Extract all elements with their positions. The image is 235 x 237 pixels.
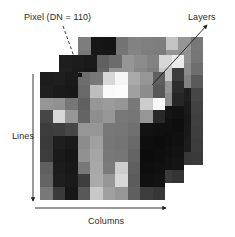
raster-cell xyxy=(172,157,185,170)
raster-cell xyxy=(159,55,172,68)
raster-cell xyxy=(128,72,141,85)
raster-cell xyxy=(65,110,78,123)
raster-cell xyxy=(78,98,91,111)
raster-cell xyxy=(78,174,91,187)
raster-cell xyxy=(128,85,141,98)
raster-cell xyxy=(153,85,166,98)
raster-cell xyxy=(128,37,141,50)
raster-cell xyxy=(78,187,91,200)
raster-cell xyxy=(116,37,129,50)
raster-cell xyxy=(40,72,53,85)
raster-cell xyxy=(115,149,128,162)
raster-cell xyxy=(40,174,53,187)
raster-cell xyxy=(115,85,128,98)
raster-cell xyxy=(90,162,103,175)
raster-cell xyxy=(65,174,78,187)
raster-cell xyxy=(90,85,103,98)
raster-cell xyxy=(172,81,185,94)
raster-cell xyxy=(97,55,110,68)
raster-cell xyxy=(153,123,166,136)
raster-cell xyxy=(191,152,204,165)
raster-cell xyxy=(140,123,153,136)
columns-label: Columns xyxy=(88,216,124,227)
raster-cell xyxy=(115,136,128,149)
raster-cell xyxy=(78,162,91,175)
lines-label: Lines xyxy=(12,131,34,142)
raster-cell xyxy=(103,110,116,123)
raster-cell xyxy=(72,55,85,68)
raster-cell xyxy=(90,136,103,149)
raster-cell xyxy=(78,136,91,149)
raster-cell xyxy=(103,174,116,187)
raster-cell xyxy=(40,98,53,111)
raster-cell xyxy=(40,149,53,162)
raster-cell xyxy=(103,123,116,136)
raster-cell xyxy=(128,187,141,200)
raster-cell xyxy=(128,174,141,187)
raster-cell xyxy=(40,162,53,175)
raster-cell xyxy=(103,136,116,149)
raster-cell xyxy=(103,149,116,162)
raster-cell xyxy=(128,110,141,123)
raster-cell xyxy=(153,110,166,123)
raster-cell xyxy=(53,72,66,85)
raster-cell xyxy=(128,136,141,149)
raster-cell xyxy=(191,127,204,140)
raster-cell xyxy=(40,136,53,149)
raster-cell xyxy=(40,85,53,98)
raster-cell xyxy=(78,85,91,98)
raster-cell xyxy=(78,37,91,50)
raster-cell xyxy=(103,98,116,111)
raster-cell xyxy=(53,110,66,123)
raster-cell xyxy=(191,114,204,127)
raster-cell xyxy=(140,72,153,85)
raster-cell xyxy=(128,149,141,162)
raster-cell xyxy=(115,72,128,85)
raster-cell xyxy=(140,110,153,123)
raster-cell xyxy=(153,162,166,175)
raster-cell xyxy=(140,162,153,175)
raster-cell xyxy=(65,136,78,149)
raster-cell xyxy=(172,119,185,132)
raster-cell xyxy=(90,98,103,111)
raster-cell xyxy=(115,98,128,111)
highlighted-pixel-marker xyxy=(78,73,82,77)
raster-cell xyxy=(191,37,204,50)
raster-cell xyxy=(115,110,128,123)
raster-cell xyxy=(103,187,116,200)
raster-cell xyxy=(172,132,185,145)
raster-layer-stack xyxy=(0,0,235,237)
raster-cell xyxy=(109,55,122,68)
raster-cell xyxy=(65,162,78,175)
layers-label: Layers xyxy=(188,12,216,23)
raster-cell xyxy=(128,98,141,111)
raster-cell xyxy=(103,72,116,85)
raster-cell xyxy=(140,187,153,200)
raster-cell xyxy=(78,123,91,136)
raster-cell xyxy=(40,110,53,123)
raster-cell xyxy=(153,187,166,200)
raster-cell xyxy=(78,110,91,123)
raster-cell xyxy=(153,149,166,162)
raster-cell xyxy=(166,37,179,50)
raster-cell xyxy=(153,72,166,85)
raster-cell xyxy=(90,72,103,85)
raster-cell xyxy=(140,98,153,111)
raster-cell xyxy=(128,162,141,175)
raster-cell xyxy=(53,123,66,136)
raster-cell xyxy=(78,149,91,162)
raster-cell xyxy=(90,110,103,123)
raster-cell xyxy=(53,85,66,98)
raster-cell xyxy=(53,187,66,200)
raster-cell xyxy=(90,123,103,136)
raster-cell xyxy=(40,123,53,136)
raster-cell xyxy=(172,55,185,68)
raster-cell xyxy=(115,162,128,175)
raster-cell xyxy=(115,123,128,136)
raster-cell xyxy=(134,55,147,68)
raster-cell xyxy=(103,162,116,175)
raster-cell xyxy=(172,145,185,158)
raster-cell xyxy=(172,93,185,106)
raster-cell xyxy=(153,174,166,187)
raster-layer-front xyxy=(40,72,165,200)
